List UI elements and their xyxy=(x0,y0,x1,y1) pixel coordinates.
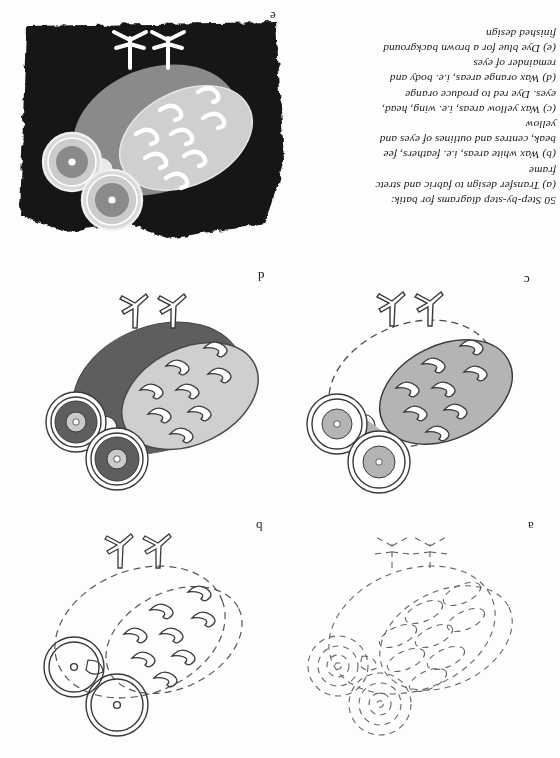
caption-line: (d) Wax orange areas, i.e. body and xyxy=(330,71,556,86)
panel-a-transferred-design xyxy=(300,520,550,750)
figure-caption: 50 Step-by-step diagrams for batik: (a) … xyxy=(330,2,558,208)
caption-line: finished design xyxy=(330,26,556,41)
caption-line: yellow xyxy=(330,117,556,132)
caption-line: 50 Step-by-step diagrams for batik: xyxy=(330,193,556,208)
caption-line: (c) Wax yellow areas, i.e. wing, head, xyxy=(330,102,556,117)
caption-line: eyes. Dye red to produce orange xyxy=(330,86,556,101)
scanned-book-page: 50 Step-by-step diagrams for batik: (a) … xyxy=(0,0,560,758)
panel-e-finished-design xyxy=(8,10,298,250)
caption-line: beak, centres and outlines of eyes and xyxy=(330,132,556,147)
caption-line: (a) Transfer design to fabric and stretc xyxy=(330,178,556,193)
panel-d-orange-waxed xyxy=(18,276,298,496)
caption-line: (b) Wax white areas, i.e. feathers, fee xyxy=(330,147,556,162)
caption-line: frame xyxy=(330,162,556,177)
panel-b-white-waxed xyxy=(22,520,282,750)
caption-line: (e) Dye blue for a brown background xyxy=(330,41,556,56)
caption-line: remainder of eyes xyxy=(330,56,556,71)
panel-c-yellow-waxed xyxy=(300,276,550,496)
